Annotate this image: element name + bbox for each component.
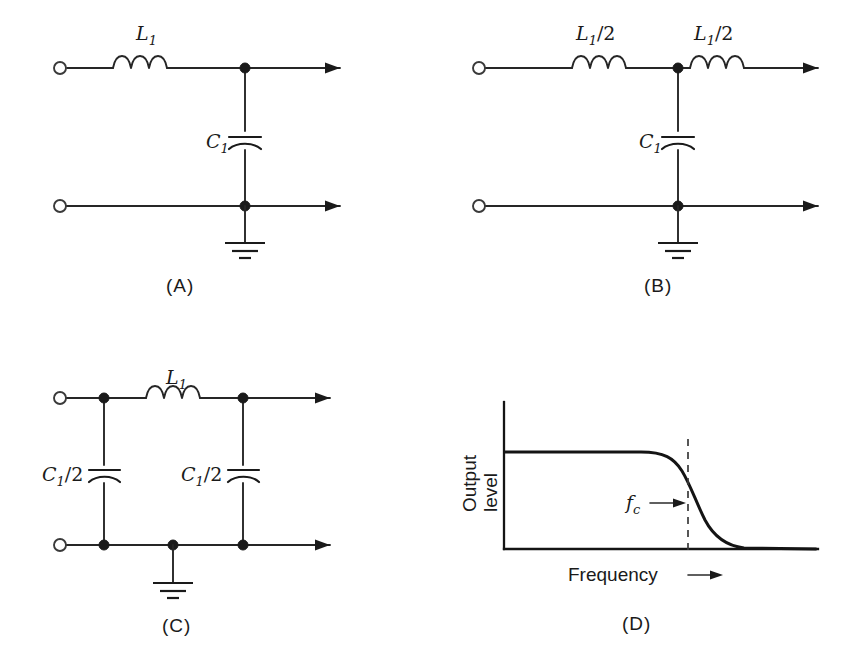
panel-a-caption: (A) [166, 275, 194, 296]
input-terminal-top [54, 392, 66, 404]
junction-node-top [240, 63, 250, 73]
x-axis-label: Frequency [568, 564, 658, 585]
capacitor-C1-label: C1 [206, 130, 229, 156]
bottom-output-arrow-icon [315, 540, 330, 551]
input-terminal-top [54, 62, 66, 74]
input-terminal-bottom [54, 200, 66, 212]
x-axis-label-arrow-icon [710, 571, 723, 580]
ground-icon [658, 243, 698, 258]
figure-root: L1 C1 ( [0, 0, 852, 668]
bottom-output-arrow-icon [803, 201, 818, 212]
input-terminal-top [473, 62, 485, 74]
junction-node-bottom-right [238, 540, 248, 550]
cutoff-arrow-icon [673, 499, 686, 508]
y-axis-label-line1: Output [459, 454, 480, 512]
top-output-arrow-icon [803, 63, 818, 74]
input-terminal-bottom [473, 200, 485, 212]
capacitor-C1a-plate-bottom [89, 477, 120, 482]
panel-b-caption: (B) [644, 275, 672, 296]
inductor-L1-icon [113, 56, 167, 68]
cutoff-frequency-label: fc [624, 491, 641, 517]
panel-c-caption: (C) [162, 615, 191, 636]
inductor-L1b-label: L1/2 [693, 22, 733, 48]
inductor-L1a-label: L1/2 [575, 22, 615, 48]
input-terminal-bottom [54, 539, 66, 551]
capacitor-C1b-label: C1/2 [181, 463, 222, 489]
y-axis-label-line2: level [480, 473, 501, 512]
panel-b-t-section-filter: L1/2 L1/2 C1 [426, 0, 852, 334]
lowpass-response-curve [505, 452, 816, 549]
panel-c-pi-section-filter: L1 C1/2 C1/2 [0, 334, 426, 668]
capacitor-C1-label: C1 [639, 130, 662, 156]
ground-icon [153, 583, 193, 598]
inductor-L1b-icon [690, 56, 744, 68]
junction-node-bottom-left [99, 540, 109, 550]
junction-node-top [673, 63, 683, 73]
capacitor-C1a-label: C1/2 [42, 463, 83, 489]
bottom-output-arrow-icon [325, 201, 340, 212]
capacitor-C1-plate-bottom [662, 144, 694, 149]
inductor-L1-label: L1 [135, 22, 157, 48]
top-output-arrow-icon [325, 63, 340, 74]
panel-d-caption: (D) [622, 613, 651, 634]
panel-a-l-section-filter: L1 C1 ( [0, 0, 426, 334]
y-axis-label: Output level [459, 454, 501, 512]
inductor-L1a-icon [572, 56, 626, 68]
panel-d-frequency-response-chart: fc Output level Frequency (D) [426, 334, 852, 668]
capacitor-C1b-plate-bottom [228, 477, 259, 482]
top-output-arrow-icon [315, 393, 330, 404]
capacitor-C1-plate-bottom [229, 144, 261, 149]
junction-node-top-left [99, 393, 109, 403]
ground-icon [225, 243, 265, 258]
junction-node-top-right [238, 393, 248, 403]
